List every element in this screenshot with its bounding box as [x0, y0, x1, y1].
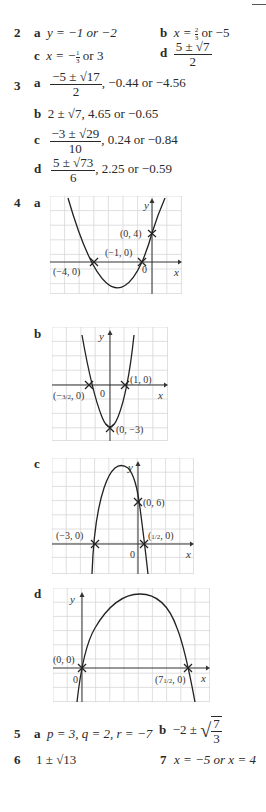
part-label: b	[160, 25, 167, 40]
graph-4d: y x 0 (0, 0) (71/2, 0)	[53, 588, 210, 702]
svg-text:(−3, 0): (−3, 0)	[56, 530, 83, 542]
fraction: −5 ± √172	[50, 70, 102, 98]
part-label-4c: c	[34, 456, 40, 472]
answer-3d: d 5 ± √736, 2.25 or −0.59	[34, 156, 172, 184]
question-number-2: 2	[14, 25, 21, 41]
question-number-7: 7	[160, 752, 167, 768]
svg-text:x: x	[157, 389, 163, 401]
part-label: d	[34, 161, 41, 176]
svg-text:(−3/2, 0): (−3/2, 0)	[53, 390, 84, 402]
graph-4a: y x 0 (0, 4) (−1, 0) (−4, 0)	[50, 196, 182, 294]
answer-suffix: or −5	[198, 25, 229, 40]
answer-5b: b −2 ± √73	[159, 716, 222, 745]
answer-text: 2 ± √7, 4.65 or −0.65	[48, 106, 158, 121]
graph-4c: y x 0 (0, 6) (−3, 0) (1/2, 0)	[52, 458, 194, 574]
part-label: d	[160, 45, 167, 60]
part-label: b	[34, 106, 41, 121]
fraction: 5 ± √72	[174, 40, 212, 68]
fraction: 73	[211, 716, 222, 745]
answer-text: p = 3, q = 2, r = −7	[47, 726, 152, 741]
answer-3b: b 2 ± √7, 4.65 or −0.65	[34, 106, 158, 122]
answer-suffix: , 0.24 or −0.84	[101, 132, 178, 147]
sqrt-sign: √	[200, 719, 211, 741]
page-edge-rule	[252, 4, 266, 5]
answer-2c: c x = −13 or 3	[34, 48, 103, 65]
answer-3a: a −5 ± √172, −0.44 or −4.56	[34, 70, 186, 98]
part-label: a	[34, 75, 41, 90]
answer-3c: c −3 ± √2910, 0.24 or −0.84	[34, 127, 178, 155]
part-label: a	[34, 726, 41, 741]
answer-suffix: , 2.25 or −0.59	[95, 161, 172, 176]
part-label-4b: b	[34, 326, 41, 342]
part-label-4d: d	[34, 586, 41, 602]
part-label: c	[34, 132, 40, 147]
fraction: −3 ± √2910	[50, 127, 102, 155]
svg-text:(−4, 0): (−4, 0)	[53, 266, 80, 278]
svg-text:0: 0	[73, 674, 78, 685]
svg-text:0: 0	[100, 388, 105, 399]
svg-text:(0, 0): (0, 0)	[53, 654, 75, 666]
answer-prefix: −2 ±	[173, 722, 200, 737]
svg-text:(1/2, 0): (1/2, 0)	[148, 530, 174, 542]
svg-text:(0, 4): (0, 4)	[120, 228, 142, 240]
svg-text:(−1, 0): (−1, 0)	[105, 247, 132, 259]
svg-text:y: y	[127, 461, 133, 473]
svg-text:0: 0	[130, 549, 135, 560]
svg-text:y: y	[98, 330, 104, 342]
part-label: b	[159, 722, 166, 737]
svg-text:x: x	[200, 672, 206, 684]
answer-7: x = −5 or x = 4	[174, 752, 256, 768]
answer-6: 1 ± √13	[36, 752, 76, 768]
answer-2d: d 5 ± √72	[160, 40, 212, 68]
part-label: a	[34, 25, 41, 40]
answer-suffix: or 3	[80, 48, 104, 63]
answer-5a: a p = 3, q = 2, r = −7	[34, 726, 152, 742]
question-number-6: 6	[14, 752, 21, 768]
svg-text:(1, 0): (1, 0)	[130, 374, 152, 386]
fraction: 5 ± √736	[51, 156, 95, 184]
answer-prefix: x = −	[46, 48, 76, 63]
svg-text:y: y	[69, 593, 75, 605]
part-label-4a: a	[34, 195, 41, 211]
answer-prefix: x =	[174, 25, 195, 40]
answer-text: y = −1 or −2	[47, 25, 117, 40]
svg-text:(0, −3): (0, −3)	[116, 424, 143, 436]
part-label: c	[34, 48, 40, 63]
answer-suffix: , −0.44 or −4.56	[102, 75, 186, 90]
svg-text:x: x	[173, 266, 179, 278]
graph-4b: y x 0 (1, 0) (−3/2, 0) (0, −3)	[52, 327, 168, 441]
answer-2a: a y = −1 or −2	[34, 25, 117, 41]
question-number-4: 4	[14, 195, 21, 211]
svg-text:(0, 6): (0, 6)	[143, 497, 165, 509]
question-number-3: 3	[14, 78, 21, 94]
question-number-5: 5	[14, 726, 21, 742]
svg-text:(71/2, 0): (71/2, 0)	[155, 674, 186, 686]
svg-text:y: y	[143, 199, 149, 211]
svg-text:x: x	[185, 548, 191, 560]
